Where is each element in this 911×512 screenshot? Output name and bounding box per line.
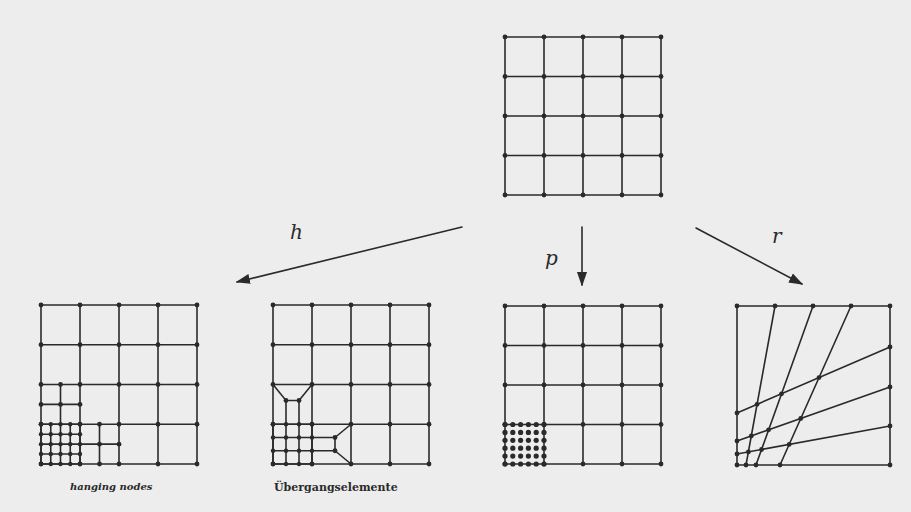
mesh-node bbox=[156, 342, 161, 347]
mesh-node bbox=[526, 430, 531, 435]
mesh-node bbox=[97, 442, 102, 447]
mesh-edge bbox=[780, 306, 851, 465]
caption-transition-elements: Übergangselemente bbox=[274, 482, 398, 493]
mesh-node bbox=[735, 439, 740, 444]
arrow-label-r: r bbox=[772, 226, 782, 246]
mesh-node bbox=[502, 438, 507, 443]
mesh-node bbox=[502, 461, 507, 466]
mesh-node bbox=[97, 462, 102, 467]
mesh-node bbox=[284, 449, 288, 453]
mesh-node bbox=[518, 446, 523, 451]
mesh-node bbox=[542, 343, 547, 348]
mesh-node bbox=[773, 304, 778, 309]
mesh-node bbox=[78, 402, 83, 407]
mesh-node bbox=[117, 442, 122, 447]
mesh-node bbox=[659, 193, 664, 198]
mesh-node bbox=[581, 193, 586, 198]
mesh-node bbox=[117, 462, 122, 467]
mesh-node bbox=[581, 383, 586, 388]
caption-hanging-nodes: hanging nodes bbox=[70, 482, 152, 492]
mesh-node bbox=[427, 422, 432, 427]
mesh-node bbox=[284, 398, 289, 403]
mesh-node bbox=[787, 442, 792, 447]
mesh-node bbox=[271, 435, 275, 439]
mesh-node bbox=[503, 343, 508, 348]
mesh-node bbox=[271, 342, 276, 347]
mesh-node bbox=[534, 438, 539, 443]
mesh-node bbox=[68, 452, 72, 456]
mesh-node bbox=[817, 375, 822, 380]
mesh-node bbox=[310, 422, 314, 426]
mesh-node bbox=[735, 304, 740, 309]
mesh-node bbox=[195, 382, 200, 387]
mesh-node bbox=[284, 462, 288, 466]
mesh-node bbox=[510, 461, 515, 466]
mesh-node bbox=[503, 383, 508, 388]
mesh-node bbox=[659, 114, 664, 119]
mesh-node bbox=[156, 303, 161, 308]
mesh-node bbox=[502, 446, 507, 451]
mesh-node bbox=[542, 383, 547, 388]
mesh-node bbox=[888, 463, 893, 468]
mesh-node bbox=[297, 435, 301, 439]
mesh-node bbox=[620, 35, 625, 40]
mesh-edge bbox=[737, 387, 890, 441]
mesh-node bbox=[620, 153, 625, 158]
mesh-node bbox=[388, 422, 393, 427]
mesh-node bbox=[427, 342, 432, 347]
mesh-node bbox=[503, 304, 508, 309]
mesh-node bbox=[503, 114, 508, 119]
mesh-node bbox=[581, 343, 586, 348]
mesh-node bbox=[542, 304, 547, 309]
mesh-edge bbox=[273, 385, 286, 401]
mesh-node bbox=[68, 442, 72, 446]
mesh-node bbox=[78, 432, 82, 436]
mesh-node bbox=[156, 422, 161, 427]
mesh-node bbox=[58, 442, 62, 446]
mesh-node bbox=[503, 35, 508, 40]
mesh-node bbox=[58, 462, 62, 466]
mesh-node bbox=[510, 454, 515, 459]
mesh-node bbox=[620, 74, 625, 79]
mesh-node bbox=[526, 422, 531, 427]
mesh-node bbox=[78, 303, 83, 308]
mesh-node bbox=[333, 448, 338, 453]
mesh-node bbox=[581, 74, 586, 79]
mesh-node bbox=[502, 454, 507, 459]
mesh-node bbox=[755, 402, 760, 407]
mesh-node bbox=[195, 462, 200, 467]
mesh-node bbox=[58, 452, 62, 456]
mesh-node bbox=[659, 383, 664, 388]
mesh-node bbox=[39, 303, 44, 308]
mesh-node bbox=[117, 382, 122, 387]
mesh-node bbox=[49, 452, 53, 456]
mesh-node bbox=[581, 422, 586, 427]
mesh-node bbox=[849, 304, 854, 309]
mesh-node bbox=[888, 345, 893, 350]
mesh-node bbox=[620, 114, 625, 119]
mesh-node bbox=[502, 422, 507, 427]
mesh-node bbox=[502, 430, 507, 435]
mesh-node bbox=[58, 432, 62, 436]
mesh-node bbox=[798, 416, 803, 421]
mesh-node bbox=[68, 422, 72, 426]
mesh-node bbox=[534, 446, 539, 451]
mesh-node bbox=[39, 462, 43, 466]
mesh-node bbox=[78, 382, 83, 387]
mesh-node bbox=[78, 452, 82, 456]
mesh-node bbox=[526, 438, 531, 443]
mesh-node bbox=[749, 434, 754, 439]
mesh-node bbox=[735, 411, 740, 416]
mesh-node bbox=[659, 304, 664, 309]
mesh-node bbox=[427, 303, 432, 308]
arrow-label-p: p bbox=[545, 248, 558, 268]
mesh-node bbox=[39, 422, 43, 426]
mesh-node bbox=[534, 422, 539, 427]
mesh-node bbox=[510, 422, 515, 427]
mesh-node bbox=[49, 462, 53, 466]
mesh-node bbox=[620, 383, 625, 388]
mesh-node bbox=[659, 35, 664, 40]
arrow-label-h: h bbox=[290, 222, 303, 242]
mesh-node bbox=[510, 430, 515, 435]
mesh-node bbox=[78, 342, 83, 347]
